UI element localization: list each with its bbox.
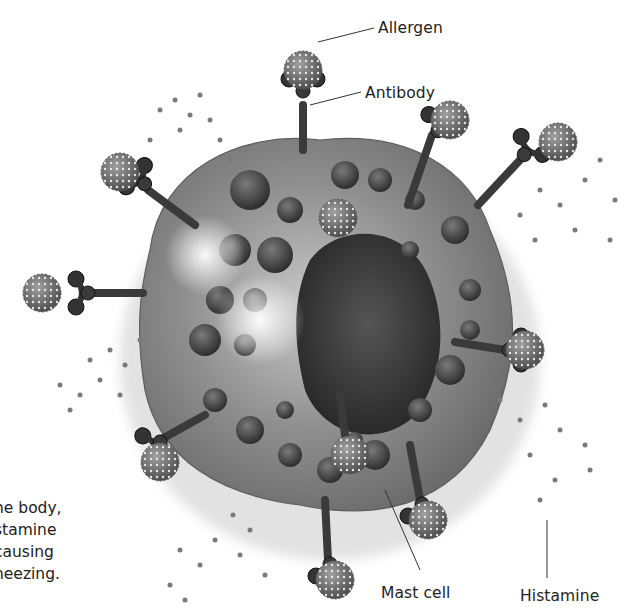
label-antibody: Antibody bbox=[365, 84, 435, 102]
figure: Allergen Antibody Mast cell Histamine he… bbox=[0, 0, 644, 612]
label-allergen: Allergen bbox=[378, 19, 443, 37]
label-mast-cell: Mast cell bbox=[381, 584, 451, 602]
label-histamine: Histamine bbox=[520, 587, 599, 605]
caption-line: causing bbox=[0, 541, 124, 563]
caption-line: neezing. bbox=[0, 563, 124, 585]
caption: he body, stamine causing neezing. bbox=[0, 497, 124, 585]
caption-line: stamine bbox=[0, 519, 124, 541]
caption-line: he body, bbox=[0, 497, 124, 519]
